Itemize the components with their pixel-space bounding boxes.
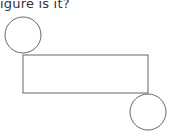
center-rectangle xyxy=(23,55,148,93)
top-left-circle xyxy=(5,17,41,53)
figure-diagram xyxy=(0,0,175,131)
bottom-right-circle xyxy=(130,94,166,130)
